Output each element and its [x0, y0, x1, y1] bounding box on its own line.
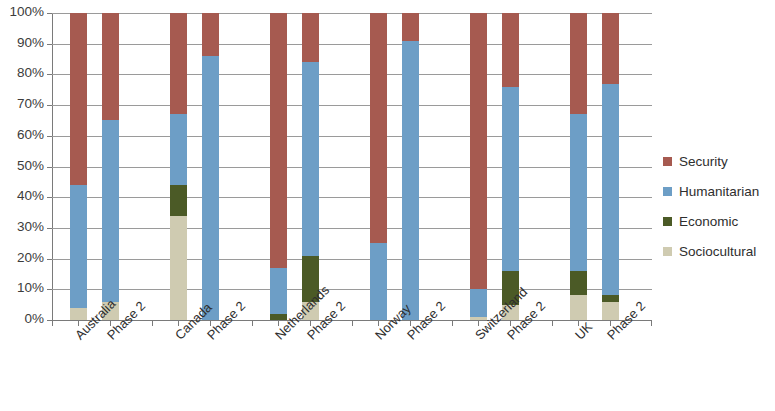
bar-segment-security[interactable]	[602, 13, 619, 84]
bar-segment-security[interactable]	[470, 13, 487, 289]
bar-canada-2[interactable]	[170, 13, 187, 320]
bar-segment-humanitarian[interactable]	[370, 243, 387, 320]
y-axis-tick-label: 20%	[0, 250, 44, 265]
y-axis-tick	[47, 13, 52, 14]
bar-segment-security[interactable]	[102, 13, 119, 120]
y-axis-tick-label: 30%	[0, 219, 44, 234]
bar-segment-sociocultural[interactable]	[170, 216, 187, 320]
legend-item-economic[interactable]: Economic	[663, 206, 775, 236]
bar-switzerland-8[interactable]	[470, 13, 487, 320]
bar-segment-security[interactable]	[70, 13, 87, 185]
x-axis-group-tick	[152, 320, 153, 326]
bar-segment-sociocultural[interactable]	[570, 295, 587, 320]
y-axis-tick	[47, 289, 52, 290]
legend-item-security[interactable]: Security	[663, 146, 775, 176]
gridline	[52, 259, 652, 260]
legend-item-humanitarian[interactable]: Humanitarian	[663, 176, 775, 206]
legend-label: Economic	[679, 214, 738, 229]
bar-segment-humanitarian[interactable]	[170, 114, 187, 185]
y-axis-tick-label: 60%	[0, 127, 44, 142]
bar-phase-2-5[interactable]	[302, 13, 319, 320]
bar-segment-humanitarian[interactable]	[602, 84, 619, 296]
legend-item-sociocultural[interactable]: Sociocultural	[663, 236, 775, 266]
gridline	[52, 167, 652, 168]
bar-segment-economic[interactable]	[570, 271, 587, 296]
bar-segment-economic[interactable]	[602, 295, 619, 301]
bar-segment-security[interactable]	[370, 13, 387, 243]
y-axis-tick-label: 40%	[0, 188, 44, 203]
bar-segment-humanitarian[interactable]	[402, 41, 419, 320]
gridline	[52, 13, 652, 14]
bar-segment-humanitarian[interactable]	[102, 120, 119, 301]
gridline	[52, 44, 652, 45]
bar-segment-security[interactable]	[202, 13, 219, 56]
bar-segment-humanitarian[interactable]	[302, 62, 319, 255]
y-axis-tick	[47, 259, 52, 260]
bar-norway-6[interactable]	[370, 13, 387, 320]
x-axis-group-tick	[552, 320, 553, 326]
y-axis-tick	[47, 136, 52, 137]
y-axis-tick	[47, 44, 52, 45]
bar-phase-2-11[interactable]	[602, 13, 619, 320]
bar-segment-humanitarian[interactable]	[470, 289, 487, 317]
bar-segment-security[interactable]	[170, 13, 187, 114]
chart-legend: SecurityHumanitarianEconomicSociocultura…	[663, 146, 775, 266]
bar-segment-sociocultural[interactable]	[602, 302, 619, 320]
bar-segment-security[interactable]	[502, 13, 519, 87]
bar-segment-humanitarian[interactable]	[570, 114, 587, 271]
y-axis-tick-label: 70%	[0, 96, 44, 111]
bar-segment-humanitarian[interactable]	[270, 268, 287, 314]
bar-segment-security[interactable]	[570, 13, 587, 114]
y-axis-tick	[47, 228, 52, 229]
bar-australia-0[interactable]	[70, 13, 87, 320]
gridline	[52, 105, 652, 106]
bar-phase-2-7[interactable]	[402, 13, 419, 320]
bar-segment-humanitarian[interactable]	[502, 87, 519, 271]
bar-uk-10[interactable]	[570, 13, 587, 320]
stacked-bar-chart: 100%90%80%70%60%50%40%30%20%10%0% Austra…	[0, 0, 775, 411]
x-axis-group-tick	[52, 320, 53, 326]
x-axis-label: UK	[572, 319, 595, 342]
legend-swatch-icon	[663, 187, 672, 196]
y-axis-tick-label: 10%	[0, 280, 44, 295]
bar-netherlands-4[interactable]	[270, 13, 287, 320]
y-axis-tick-label: 100%	[0, 4, 44, 19]
bar-phase-2-9[interactable]	[502, 13, 519, 320]
gridline	[52, 289, 652, 290]
legend-swatch-icon	[663, 247, 672, 256]
y-axis-tick-label: 50%	[0, 158, 44, 173]
legend-swatch-icon	[663, 157, 672, 166]
gridline	[52, 197, 652, 198]
y-axis-tick	[47, 197, 52, 198]
y-axis-tick-label: 90%	[0, 35, 44, 50]
x-axis-group-tick	[252, 320, 253, 326]
bar-segment-humanitarian[interactable]	[70, 185, 87, 308]
bar-phase-2-3[interactable]	[202, 13, 219, 320]
gridline	[52, 136, 652, 137]
y-axis-tick	[47, 167, 52, 168]
y-axis-tick-label: 80%	[0, 65, 44, 80]
x-axis-group-tick	[352, 320, 353, 326]
legend-label: Sociocultural	[679, 244, 756, 259]
bar-segment-security[interactable]	[302, 13, 319, 62]
y-axis-tick-label: 0%	[0, 311, 44, 326]
legend-label: Security	[679, 154, 728, 169]
legend-swatch-icon	[663, 217, 672, 226]
plot-area	[52, 13, 652, 320]
y-axis-tick	[47, 105, 52, 106]
gridline	[52, 74, 652, 75]
y-axis-tick	[47, 74, 52, 75]
legend-label: Humanitarian	[679, 184, 759, 199]
x-axis-group-tick	[651, 320, 652, 326]
bar-segment-humanitarian[interactable]	[202, 56, 219, 320]
gridline	[52, 228, 652, 229]
x-axis-group-tick	[452, 320, 453, 326]
bar-phase-2-1[interactable]	[102, 13, 119, 320]
bar-segment-security[interactable]	[402, 13, 419, 41]
bar-segment-economic[interactable]	[170, 185, 187, 216]
bar-segment-security[interactable]	[270, 13, 287, 268]
